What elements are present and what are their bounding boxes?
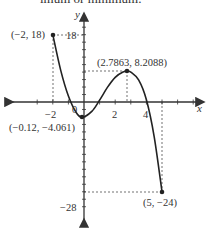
y-tick-label: 18 (66, 30, 77, 41)
x-tick-label: 4 (143, 109, 149, 120)
x-tick-label: 2 (112, 109, 117, 120)
y-axis-label: y (74, 8, 80, 20)
x-tick-label: −2 (45, 109, 56, 120)
endpoint-right (160, 190, 165, 195)
annotation-local-max: (2.7863, 8.2088) (97, 57, 167, 69)
annotation-local-min: (−0.12, −4.061) (9, 122, 76, 134)
y-tick-label: −28 (60, 202, 76, 213)
x-tick-label: 0 (72, 104, 77, 115)
function-graph: y x −2 0 2 4 18 −28 (−2, 18) (2.7863, 8.… (0, 0, 207, 228)
x-axis-label: x (196, 102, 202, 114)
annotation-endpoint-left: (−2, 18) (11, 29, 45, 41)
local-min-point (80, 115, 85, 120)
annotation-endpoint-right: (5, −24) (143, 197, 177, 209)
endpoint-left (51, 33, 56, 38)
local-max-point (125, 69, 130, 74)
